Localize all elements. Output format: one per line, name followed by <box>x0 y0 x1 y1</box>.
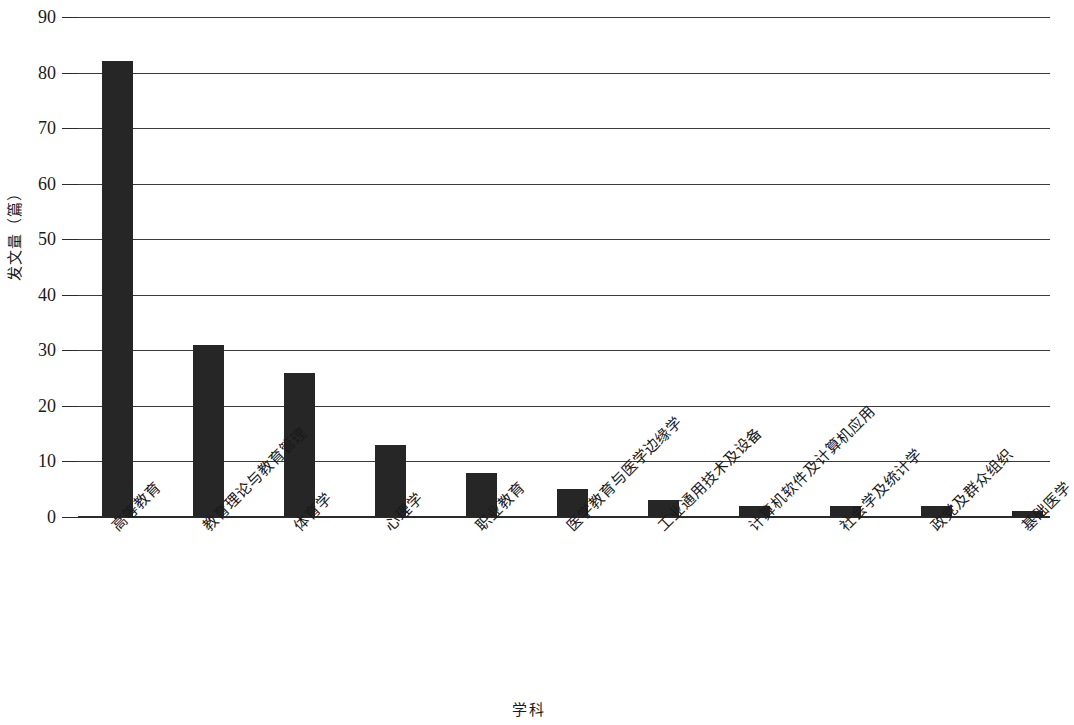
y-tick-label: 20 <box>22 397 56 415</box>
plot-area <box>78 17 1050 517</box>
y-axis-title: 发文量（篇） <box>3 168 24 298</box>
y-tick-label: 10 <box>22 452 56 470</box>
y-tick-label: 80 <box>22 64 56 82</box>
bar <box>102 61 133 517</box>
y-tick-label: 40 <box>22 286 56 304</box>
y-tick-mark <box>62 350 78 351</box>
y-tick-label: 50 <box>22 230 56 248</box>
y-tick-mark <box>62 128 78 129</box>
bar <box>193 345 224 517</box>
y-tick-mark <box>62 73 78 74</box>
y-tick-mark <box>62 461 78 462</box>
x-axis-title: 学科 <box>0 698 1058 719</box>
y-tick-label: 0 <box>22 508 56 526</box>
y-tick-mark <box>62 239 78 240</box>
y-tick-mark <box>62 406 78 407</box>
y-tick-mark <box>62 517 78 518</box>
y-tick-label: 30 <box>22 341 56 359</box>
y-tick-mark <box>62 295 78 296</box>
y-tick-label: 70 <box>22 119 56 137</box>
y-tick-label: 60 <box>22 175 56 193</box>
y-tick-label: 90 <box>22 8 56 26</box>
y-tick-mark <box>62 17 78 18</box>
y-tick-mark <box>62 184 78 185</box>
